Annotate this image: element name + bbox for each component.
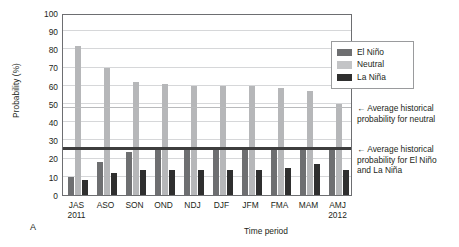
bar-lanina <box>82 180 88 195</box>
bar-neutral <box>278 88 284 195</box>
bar-elnino <box>300 148 306 195</box>
bar-group <box>208 15 237 195</box>
bar-elnino <box>155 150 161 196</box>
x-tick-period: AMJ <box>329 200 346 210</box>
bar-elnino <box>213 148 219 195</box>
annotation-neutral-line2: probability for neutral <box>357 114 435 124</box>
bar-lanina <box>111 173 117 195</box>
bar-elnino <box>329 148 335 195</box>
y-axis-title: Probability (%) <box>12 31 21 151</box>
bar-elnino <box>68 177 74 195</box>
annotation-average-neutral: ← Average historical probability for neu… <box>357 103 459 124</box>
annotation-enso-line1: Average historical <box>367 144 433 154</box>
bar-neutral <box>162 84 168 195</box>
y-tick-60: 60 <box>30 83 58 91</box>
legend-item: La Niña <box>337 71 408 84</box>
bar-group <box>121 15 150 195</box>
x-tick-period: JFM <box>242 200 258 210</box>
y-tick-0: 0 <box>30 192 58 200</box>
bar-group <box>150 15 179 195</box>
legend-item: El Niño <box>337 46 408 59</box>
x-tick-year: 2012 <box>317 210 358 220</box>
y-tick-30: 30 <box>30 137 58 145</box>
bar-lanina <box>198 170 204 195</box>
bar-neutral <box>249 86 255 195</box>
bar-lanina <box>227 170 233 195</box>
legend-swatch-elnino <box>337 49 352 57</box>
legend-swatch-neutral <box>337 61 352 69</box>
bar-group <box>92 15 121 195</box>
annotation-arrow-icon: ← <box>357 144 365 154</box>
bar-elnino <box>97 162 103 195</box>
bar-group <box>63 15 92 195</box>
y-tick-100: 100 <box>30 10 58 18</box>
legend-label: Neutral <box>357 60 384 69</box>
legend-swatch-lanina <box>337 74 352 82</box>
x-tick-period: OND <box>154 200 173 210</box>
enso-probability-bar-chart: Probability (%) 1009080706050403020100 J… <box>0 0 459 247</box>
bar-lanina <box>256 170 262 195</box>
y-tick-80: 80 <box>30 46 58 54</box>
bar-lanina <box>169 170 175 195</box>
annotation-neutral-line1: Average historical <box>367 103 433 113</box>
plot-area <box>62 14 352 196</box>
bar-elnino <box>184 150 190 196</box>
bar-group <box>266 15 295 195</box>
y-tick-40: 40 <box>30 119 58 127</box>
bar-lanina <box>285 168 291 195</box>
x-tick-amj: AMJ2012 <box>317 200 358 220</box>
annotation-arrow-icon: ← <box>357 103 365 113</box>
x-tick-period: FMA <box>271 200 289 210</box>
y-tick-10: 10 <box>30 174 58 182</box>
bar-lanina <box>343 170 349 195</box>
annotation-average-elnino-lanina: ← Average historical probability for El … <box>357 144 459 176</box>
y-axis-tick-labels: 1009080706050403020100 <box>28 0 58 247</box>
bar-group <box>179 15 208 195</box>
bar-neutral <box>220 86 226 195</box>
x-tick-period: SON <box>125 200 143 210</box>
x-tick-period: MAM <box>299 200 319 210</box>
bar-elnino <box>126 152 132 195</box>
average-historical-neutral-line <box>63 107 351 108</box>
legend-label: La Niña <box>357 73 386 82</box>
x-tick-period: ASO <box>97 200 115 210</box>
bar-neutral <box>104 68 110 195</box>
x-axis-title: Time period <box>206 226 326 236</box>
average-historical-elnino-lanina-line <box>63 147 351 149</box>
bar-lanina <box>140 170 146 195</box>
y-tick-70: 70 <box>30 64 58 72</box>
x-tick-period: NDJ <box>184 200 200 210</box>
bar-group <box>237 15 266 195</box>
y-tick-20: 20 <box>30 155 58 163</box>
panel-letter: A <box>30 222 36 232</box>
bar-lanina <box>314 164 320 195</box>
x-tick-period: JAS <box>69 200 84 210</box>
annotation-enso-line2: probability for El Niño <box>357 155 437 165</box>
bar-elnino <box>271 148 277 195</box>
legend-label: El Niño <box>357 48 384 57</box>
bar-neutral <box>336 104 342 195</box>
y-tick-50: 50 <box>30 101 58 109</box>
bar-neutral <box>133 82 139 195</box>
annotation-enso-line3: and La Niña <box>357 165 402 175</box>
bar-neutral <box>75 46 81 195</box>
legend-item: Neutral <box>337 59 408 72</box>
bar-elnino <box>242 148 248 195</box>
x-tick-year: 2011 <box>56 210 97 220</box>
legend: El NiñoNeutralLa Niña <box>331 41 414 89</box>
bar-group <box>295 15 324 195</box>
y-tick-90: 90 <box>30 28 58 36</box>
bar-neutral <box>191 86 197 195</box>
x-tick-period: DJF <box>214 200 229 210</box>
